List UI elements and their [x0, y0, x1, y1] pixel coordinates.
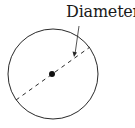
diameter-label: Diameter	[66, 2, 135, 21]
label-arrow-line	[75, 26, 79, 54]
arrowhead-icon	[73, 52, 78, 58]
center-dot	[49, 71, 55, 77]
